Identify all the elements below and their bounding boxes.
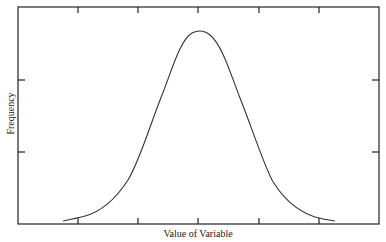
plot-frame xyxy=(18,7,379,224)
y-ticks xyxy=(18,80,379,152)
chart-canvas xyxy=(0,0,386,242)
y-axis-label: Frequency xyxy=(5,84,16,144)
x-ticks xyxy=(78,7,319,224)
normal-curve xyxy=(63,31,335,221)
x-axis-label: Value of Variable xyxy=(148,228,248,239)
